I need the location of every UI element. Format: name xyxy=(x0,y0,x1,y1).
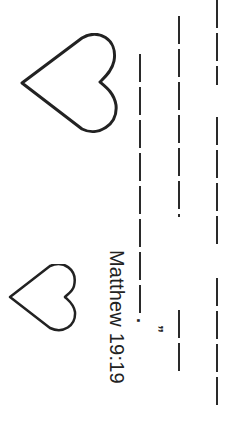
writing-line-dash xyxy=(216,377,218,405)
writing-line-dash xyxy=(139,252,141,280)
writing-line-dash xyxy=(216,150,218,178)
writing-line-dash xyxy=(178,148,180,176)
writing-line-dash xyxy=(139,87,141,115)
period-mark: . xyxy=(132,318,153,323)
writing-line-dash xyxy=(178,16,180,44)
writing-line-dash xyxy=(216,278,218,306)
writing-line-dash xyxy=(139,54,141,82)
writing-line-dash xyxy=(178,115,180,143)
writing-line-dash xyxy=(216,33,218,61)
writing-line-dash xyxy=(216,183,218,211)
writing-line-dash xyxy=(178,49,180,77)
writing-line-dash xyxy=(139,120,141,148)
writing-line-dash xyxy=(178,343,180,371)
writing-line-dash xyxy=(216,344,218,372)
small-heart-icon xyxy=(8,264,78,332)
writing-line-dash xyxy=(139,219,141,247)
writing-line-dash xyxy=(139,153,141,181)
closing-quote-mark: ” xyxy=(147,325,165,333)
writing-line-dash xyxy=(178,82,180,110)
writing-line-dash xyxy=(216,117,218,145)
writing-line-dash xyxy=(216,0,218,28)
writing-line-dash xyxy=(178,214,180,217)
writing-line-dash xyxy=(139,186,141,214)
scripture-reference: Matthew 19:19 xyxy=(105,250,128,384)
writing-line-dash xyxy=(216,216,218,244)
writing-line-dash xyxy=(139,285,141,313)
writing-line-dash xyxy=(178,181,180,209)
writing-line-dash xyxy=(178,310,180,338)
large-heart-icon xyxy=(20,33,120,135)
writing-line-dash xyxy=(216,66,218,85)
writing-line-dash xyxy=(216,311,218,339)
